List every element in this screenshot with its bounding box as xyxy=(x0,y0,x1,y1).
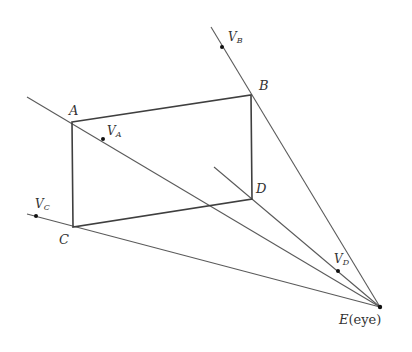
rectangle-ABDC xyxy=(72,95,252,227)
point-E xyxy=(378,305,382,309)
label-VA: VA xyxy=(107,124,122,139)
ray-A xyxy=(27,97,380,307)
label-E-suffix: (eye) xyxy=(349,312,382,327)
point-VA xyxy=(101,137,105,141)
point-VD xyxy=(336,269,340,273)
label-VC-sub: C xyxy=(44,203,50,212)
label-VB: VB xyxy=(228,30,243,45)
ray-C xyxy=(27,214,380,307)
ray-B xyxy=(211,27,380,307)
point-VC xyxy=(34,214,38,218)
label-VC: VC xyxy=(35,197,50,212)
label-VB-sub: B xyxy=(236,36,243,45)
label-C: C xyxy=(59,232,69,247)
label-A: A xyxy=(68,103,78,118)
label-E-letter: E xyxy=(338,312,349,327)
label-B: B xyxy=(258,78,269,93)
label-D: D xyxy=(255,181,267,196)
label-VD: VD xyxy=(334,252,350,267)
perspective-diagram: A B C D E(eye) VA VB VC VD xyxy=(0,0,412,352)
label-E: E(eye) xyxy=(338,312,381,327)
point-VB xyxy=(220,45,224,49)
label-VD-sub: D xyxy=(342,258,350,267)
label-VA-sub: A xyxy=(115,130,122,139)
ray-D xyxy=(214,167,380,307)
